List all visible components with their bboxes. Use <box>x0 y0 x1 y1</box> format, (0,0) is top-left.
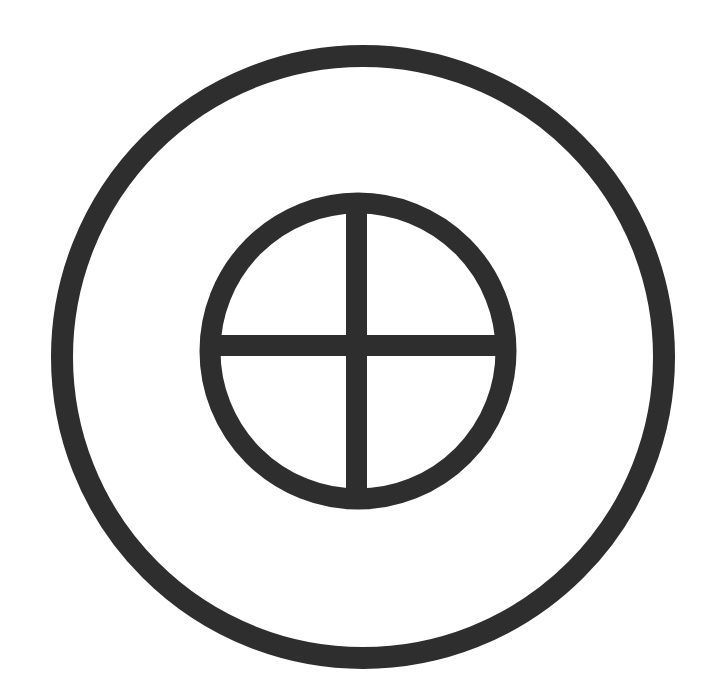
cross-horizontal-bar <box>210 335 507 356</box>
symbol-canvas: sun cross within circle <box>0 0 727 697</box>
sun-cross-icon <box>0 0 727 697</box>
